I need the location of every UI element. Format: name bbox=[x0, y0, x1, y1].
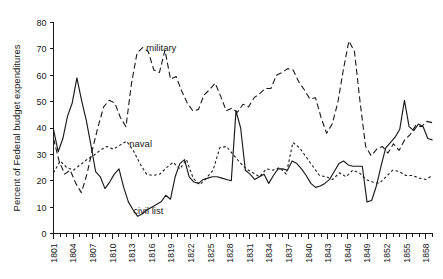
x-tick-label: 1828 bbox=[225, 243, 235, 262]
series-label-naval: naval bbox=[129, 138, 152, 149]
series-label-military: military bbox=[146, 42, 176, 53]
y-tick-label: 30 bbox=[36, 150, 46, 160]
y-axis-title-text: Percent of Federal budget expenditures bbox=[11, 44, 22, 211]
y-axis: 01020304050607080 bbox=[36, 18, 53, 239]
x-axis: 1801180418071810181318161819182218251828… bbox=[49, 234, 433, 263]
y-tick-label: 10 bbox=[36, 203, 46, 213]
y-tick-label: 0 bbox=[41, 229, 46, 239]
x-tick-label: 1822 bbox=[186, 243, 196, 262]
line-chart: 01020304050607080 1801180418071810181318… bbox=[0, 0, 443, 279]
series-label-civil-list: civil list bbox=[133, 205, 163, 216]
y-axis-title: Percent of Federal budget expenditures bbox=[11, 44, 22, 211]
x-tick-label: 1846 bbox=[343, 243, 353, 262]
y-tick-label: 50 bbox=[36, 97, 46, 107]
x-tick-label: 1834 bbox=[264, 243, 274, 262]
y-tick-label: 70 bbox=[36, 44, 46, 54]
x-tick-label: 1831 bbox=[245, 243, 255, 262]
y-tick-label: 80 bbox=[36, 18, 46, 28]
x-tick-label: 1849 bbox=[362, 243, 372, 262]
chart-container: 01020304050607080 1801180418071810181318… bbox=[0, 0, 443, 279]
x-tick-label: 1801 bbox=[49, 243, 59, 262]
x-tick-label: 1843 bbox=[323, 243, 333, 262]
x-tick-label: 1813 bbox=[127, 243, 137, 262]
x-tick-label: 1858 bbox=[421, 243, 431, 262]
series-line-military bbox=[54, 41, 433, 193]
x-tick-label: 1837 bbox=[284, 243, 294, 262]
x-tick-label: 1852 bbox=[382, 243, 392, 262]
data-series-group bbox=[54, 41, 433, 216]
x-tick-label: 1819 bbox=[166, 243, 176, 262]
x-tick-label: 1810 bbox=[108, 243, 118, 262]
y-tick-label: 20 bbox=[36, 176, 46, 186]
series-line-civil-list bbox=[54, 78, 433, 216]
x-tick-label: 1855 bbox=[402, 243, 412, 262]
y-tick-label: 60 bbox=[36, 71, 46, 81]
x-tick-label: 1816 bbox=[147, 243, 157, 262]
y-tick-label: 40 bbox=[36, 123, 46, 133]
x-tick-label: 1807 bbox=[88, 243, 98, 262]
x-tick-label: 1840 bbox=[304, 243, 314, 262]
x-tick-label: 1804 bbox=[68, 243, 78, 262]
x-tick-label: 1825 bbox=[206, 243, 216, 262]
